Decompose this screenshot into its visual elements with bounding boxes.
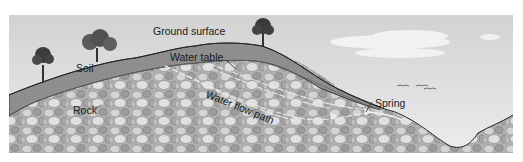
groundwater-spring-diagram: Ground surface Water table Soil Rock Wat…	[0, 0, 523, 162]
label-rock: Rock	[73, 104, 98, 116]
label-soil: Soil	[76, 62, 94, 74]
label-spring: Spring	[375, 97, 406, 109]
label-water-table: Water table	[170, 51, 223, 63]
label-ground-surface: Ground surface	[153, 25, 226, 37]
